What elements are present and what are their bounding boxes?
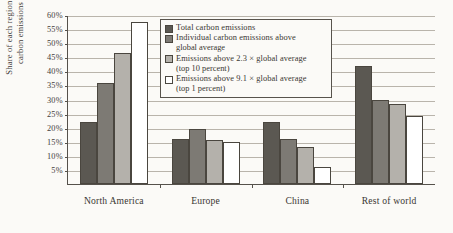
x-axis-tick (160, 184, 161, 188)
bar[interactable] (297, 147, 314, 184)
y-axis-tick-label: 5% (29, 166, 63, 175)
legend-label-continued: (top 1 percent) (165, 84, 327, 94)
y-axis-title-line-1: Share of each region in (4, 0, 15, 108)
y-axis-title: Share of each region in carbon emissions (4, 0, 26, 108)
y-axis-tick-label: 10% (29, 152, 63, 161)
legend-label: Emissions above 9.1 × global average (176, 74, 327, 84)
legend-swatch-icon (165, 55, 173, 63)
y-axis-tick-label: 50% (29, 39, 63, 48)
legend-label: Individual carbon emissions above (176, 33, 327, 43)
bar[interactable] (97, 83, 114, 184)
y-axis-tick-label: 55% (29, 25, 63, 34)
legend-swatch-icon (165, 76, 173, 84)
bar[interactable] (172, 139, 189, 184)
legend-label-continued: global average (165, 43, 327, 53)
legend-item[interactable]: Individual carbon emissions above (165, 33, 327, 43)
legend-item[interactable]: Emissions above 9.1 × global average (165, 74, 327, 84)
y-axis-tick-label: 45% (29, 53, 63, 62)
y-axis-tick-label: 30% (29, 96, 63, 105)
legend-swatch-icon (165, 25, 173, 33)
legend-label: Total carbon emissions (176, 23, 327, 33)
y-axis-tick-label: 35% (29, 81, 63, 90)
x-axis-tick (252, 184, 253, 188)
y-axis-tick-label: 20% (29, 124, 63, 133)
x-axis-label: Europe (191, 195, 220, 206)
y-axis-tick-label: 60% (29, 11, 63, 20)
bar[interactable] (263, 122, 280, 184)
bar-group: North America (68, 16, 160, 184)
bar[interactable] (206, 140, 223, 184)
bar[interactable] (80, 122, 97, 184)
bar[interactable] (131, 22, 148, 184)
bar[interactable] (189, 129, 206, 184)
y-axis-title-line-2: carbon emissions (15, 0, 26, 108)
chart-figure: Share of each region in carbon emissions… (0, 0, 453, 233)
y-axis-tick-label: 25% (29, 110, 63, 119)
bar[interactable] (223, 142, 240, 184)
y-axis-tick-label: 40% (29, 67, 63, 76)
legend-item[interactable]: Emissions above 2.3 × global average (165, 54, 327, 64)
bar[interactable] (372, 100, 389, 185)
bar-group: Rest of world (343, 16, 435, 184)
x-axis-label: North America (84, 195, 144, 206)
bar[interactable] (406, 116, 423, 184)
legend-swatch-icon (165, 35, 173, 43)
chart-legend: Total carbon emissionsIndividual carbon … (160, 19, 332, 98)
x-axis-tick (343, 184, 344, 188)
legend-item[interactable]: Total carbon emissions (165, 23, 327, 33)
bar[interactable] (114, 53, 131, 184)
bar[interactable] (355, 66, 372, 184)
bar[interactable] (280, 139, 297, 184)
x-axis-label: Rest of world (362, 195, 417, 206)
bar[interactable] (389, 104, 406, 184)
x-axis-label: China (285, 195, 309, 206)
bar[interactable] (314, 167, 331, 184)
legend-label: Emissions above 2.3 × global average (176, 54, 327, 64)
legend-label-continued: (top 10 percent) (165, 64, 327, 74)
y-axis-tick-label: 15% (29, 138, 63, 147)
